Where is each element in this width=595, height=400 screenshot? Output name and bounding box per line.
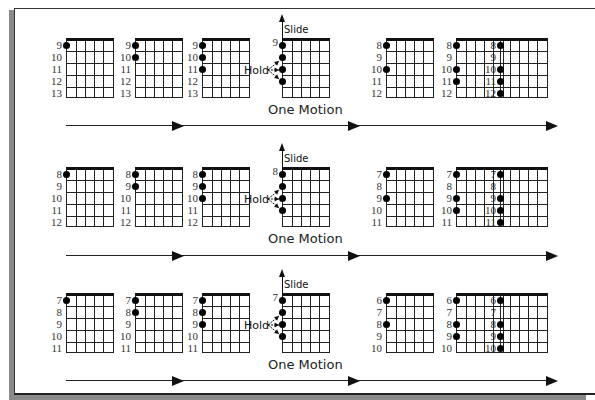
fret-number-label: 12 [40,75,62,87]
progression-arrowhead-icon [348,251,360,261]
finger-dot-icon [497,66,504,73]
fret-line [67,180,113,181]
string-line [239,170,240,226]
fret-line [203,63,249,64]
progression-arrowhead-icon [546,251,558,261]
fretboard-grid [202,38,250,98]
fret-number-label: 9 [360,192,382,204]
fret-number-label: 8 [360,180,382,192]
fret-line [203,87,249,88]
fret-number-label: 11 [176,342,198,354]
fretboard-grid [66,38,114,98]
finger-dot-icon [279,171,286,178]
fret-number-label: 9 [430,330,452,342]
fret-line [501,216,547,217]
fret-line [501,204,547,205]
string-line [239,296,240,352]
fret-number-label: 12 [109,216,131,228]
fret-line [67,306,113,307]
string-line [230,170,231,226]
fret-line [67,63,113,64]
string-line [212,170,213,226]
fretboard-grid [202,167,250,227]
string-line [221,170,222,226]
fret-number-label: 7 [256,291,278,303]
finger-dot-icon [497,90,504,97]
hold-arrows-icon [268,310,288,340]
fret-number-label: 9 [40,39,62,51]
fret-line [501,330,547,331]
fretboard-grid [66,293,114,353]
hold-label: Hold [244,64,269,77]
finger-dot-icon [453,78,460,85]
string-line [172,296,173,352]
fret-number-label: 7 [109,294,131,306]
string-line [230,41,231,97]
fret-line [387,87,433,88]
fret-line [387,342,433,343]
fretboard-grid [500,38,548,98]
hold-label: Hold [244,319,269,332]
finger-dot-icon [383,42,390,49]
fret-line [283,306,329,307]
slide-label: Slide [284,279,308,290]
fret-number-label: 12 [109,75,131,87]
finger-dot-icon [132,297,139,304]
string-line [414,296,415,352]
fret-line [501,87,547,88]
fret-line [501,342,547,343]
fret-number-label: 10 [360,63,382,75]
finger-dot-icon [497,207,504,214]
slide-arrow-line [282,20,283,42]
slide-arrowhead-icon [279,143,285,151]
string-line [414,170,415,226]
fret-line [387,330,433,331]
fret-line [501,318,547,319]
finger-dot-icon [383,297,390,304]
string-line [163,41,164,97]
string-line [310,41,311,97]
fret-line [67,204,113,205]
progression-arrowhead-icon [172,376,184,386]
fret-line [203,204,249,205]
fret-number-label: 8 [176,168,198,180]
fret-number-label: 7 [430,168,452,180]
fret-line [203,342,249,343]
fret-number-label: 11 [474,75,496,87]
finger-dot-icon [383,171,390,178]
string-line [85,296,86,352]
string-line [396,41,397,97]
finger-dot-icon [199,297,206,304]
fret-number-label: 11 [430,75,452,87]
fret-line [283,63,329,64]
fret-number-label: 12 [474,87,496,99]
string-line [230,296,231,352]
string-line [94,170,95,226]
fret-number-label: 8 [430,39,452,51]
slide-arrow-line [282,275,283,297]
finger-dot-icon [199,42,206,49]
finger-dot-icon [132,42,139,49]
fret-number-label: 10 [176,330,198,342]
fretboard-grid [386,38,434,98]
fret-number-label: 9 [109,39,131,51]
fret-line [501,192,547,193]
fret-line [283,330,329,331]
string-line [221,41,222,97]
finger-dot-icon [199,54,206,61]
string-line [292,296,293,352]
string-line [528,296,529,352]
fret-line [283,180,329,181]
one-motion-label: One Motion [268,357,343,372]
finger-dot-icon [279,42,286,49]
string-line [319,41,320,97]
fret-line [283,75,329,76]
finger-dot-icon [63,42,70,49]
fret-number-label: 8 [474,180,496,192]
fret-number-label: 7 [40,294,62,306]
fret-number-label: 10 [40,330,62,342]
finger-dot-icon [497,297,504,304]
string-line [76,41,77,97]
fret-number-label: 8 [40,168,62,180]
fret-number-label: 10 [40,51,62,63]
